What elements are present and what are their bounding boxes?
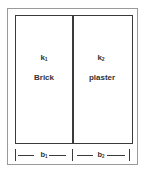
- layer-1-conductivity: k1: [40, 53, 47, 62]
- layer-1-material: Brick: [34, 73, 54, 82]
- dimension-line-b2-left: [77, 155, 93, 156]
- dimension-tick-middle: [72, 149, 73, 161]
- composite-wall: [15, 15, 133, 144]
- layer-2-conductivity: k2: [97, 53, 104, 62]
- layer-interface-line: [72, 15, 74, 144]
- dimension-tick-right: [129, 149, 130, 161]
- dimension-line-b1-left: [18, 155, 34, 156]
- dimension-tick-left: [15, 149, 16, 161]
- thickness-b2-label: b2: [97, 150, 104, 159]
- layer-2-material: plaster: [89, 73, 115, 82]
- dimension-line-b1-right: [49, 155, 66, 156]
- thickness-b1-label: b1: [40, 150, 47, 159]
- dimension-line-b2-right: [107, 155, 125, 156]
